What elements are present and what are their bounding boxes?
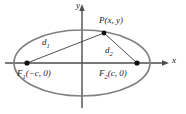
ellipse-foci-figure: y x P(x, y) F1(−c, 0) F2(c, 0) d1 d2 (0, 0, 186, 114)
y-axis-arrowhead (79, 4, 84, 11)
distance-d2-label: d2 (105, 46, 113, 57)
focus-1-point (24, 60, 29, 65)
y-axis-label: y (76, 1, 80, 10)
x-axis-label: x (172, 56, 176, 65)
focus-2-point (134, 60, 139, 65)
point-p-label: P(x, y) (99, 16, 123, 25)
focus-1-label: F1(−c, 0) (17, 69, 51, 80)
focus-1-coords: (−c, 0) (26, 68, 51, 78)
distance-d1-label: d1 (42, 38, 50, 49)
figure-canvas (0, 0, 186, 114)
d1-subscript: 1 (47, 42, 50, 49)
focus-2-label: F2(c, 0) (99, 69, 127, 80)
d2-subscript: 2 (110, 50, 113, 57)
focus-2-coords: (c, 0) (108, 68, 127, 78)
point-p-marker (102, 31, 107, 36)
x-axis-arrowhead (162, 60, 169, 65)
